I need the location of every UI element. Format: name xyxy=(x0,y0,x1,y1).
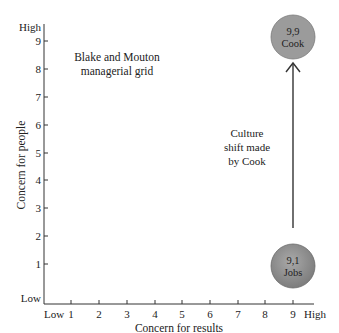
x-axis-ticks xyxy=(71,300,293,304)
jobs-name: Jobs xyxy=(284,267,303,278)
y-axis-high-label: High xyxy=(19,21,42,33)
x-tick-4: 4 xyxy=(152,308,158,320)
jobs-coord: 9,1 xyxy=(286,255,299,266)
y-tick-1: 1 xyxy=(36,258,42,270)
x-axis-high-label: High xyxy=(304,308,327,320)
jobs-circle xyxy=(271,244,315,288)
point-cook: 9,9 Cook xyxy=(271,15,315,59)
y-tick-3: 3 xyxy=(36,202,42,214)
arrow-label-line2: shift made xyxy=(224,141,270,153)
x-tick-7: 7 xyxy=(235,308,241,320)
y-tick-7: 7 xyxy=(36,91,42,103)
y-tick-2: 2 xyxy=(36,230,42,242)
y-tick-4: 4 xyxy=(36,174,42,186)
x-tick-2: 2 xyxy=(96,308,102,320)
y-tick-5: 5 xyxy=(36,147,42,159)
x-tick-1: 1 xyxy=(68,308,74,320)
arrow-label-line3: by Cook xyxy=(228,155,266,167)
arrow-label-line1: Culture xyxy=(231,127,264,139)
x-tick-8: 8 xyxy=(262,308,268,320)
point-jobs: 9,1 Jobs xyxy=(271,244,315,288)
y-axis-ticks xyxy=(44,41,48,264)
x-tick-9: 9 xyxy=(290,308,296,320)
cook-circle xyxy=(271,15,315,59)
cook-name: Cook xyxy=(282,38,306,49)
x-tick-5: 5 xyxy=(179,308,185,320)
managerial-grid-diagram: High 9 8 7 6 5 4 3 2 1 Low Concern for p… xyxy=(0,0,339,333)
y-axis-title: Concern for people xyxy=(15,121,28,210)
x-tick-6: 6 xyxy=(207,308,213,320)
y-tick-8: 8 xyxy=(36,63,42,75)
y-axis-low-label: Low xyxy=(21,292,41,304)
y-tick-9: 9 xyxy=(36,35,42,47)
cook-coord: 9,9 xyxy=(286,26,299,37)
diagram-title-line1: Blake and Mouton xyxy=(74,51,160,63)
x-axis-title: Concern for results xyxy=(135,322,224,333)
y-tick-6: 6 xyxy=(36,119,42,131)
x-axis-low-label: Low xyxy=(44,308,64,320)
x-tick-3: 3 xyxy=(124,308,130,320)
diagram-title-line2: managerial grid xyxy=(81,65,154,78)
